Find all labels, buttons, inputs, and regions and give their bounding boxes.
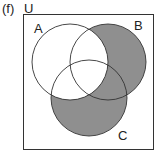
part-label: (f): [2, 1, 14, 16]
venn-diagram: (f) U A B C: [0, 0, 161, 157]
universe-label: U: [24, 1, 33, 16]
set-label-a: A: [34, 21, 43, 36]
set-label-b: B: [134, 18, 143, 33]
set-label-c: C: [118, 128, 127, 143]
